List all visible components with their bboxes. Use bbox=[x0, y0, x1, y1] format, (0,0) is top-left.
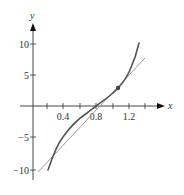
x-tick-label-0.8: 0.8 bbox=[90, 111, 103, 122]
y-axis bbox=[30, 23, 36, 180]
y-tick-label-minus-5: −5 bbox=[18, 132, 29, 143]
y-tick-label-5: 5 bbox=[24, 70, 29, 81]
tangency-point bbox=[116, 86, 120, 90]
x-tick-label-1.2: 1.2 bbox=[123, 111, 136, 122]
x-tick-label-0.4: 0.4 bbox=[57, 111, 70, 122]
y-axis-arrow-icon bbox=[30, 23, 36, 31]
y-tick-label-minus-10: −10 bbox=[13, 165, 29, 176]
y-tick-label-10: 10 bbox=[19, 39, 29, 50]
x-axis-arrow-icon bbox=[157, 103, 165, 109]
y-axis-label: y bbox=[29, 10, 35, 21]
chart: 0.4 0.8 1.2 10 5 −5 −10 x y bbox=[0, 0, 184, 195]
curve bbox=[48, 43, 139, 170]
x-axis-label: x bbox=[167, 100, 173, 111]
